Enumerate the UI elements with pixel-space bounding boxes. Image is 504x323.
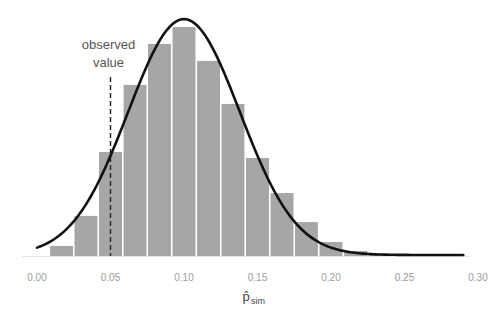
x-axis-label: p̂ sim: [242, 289, 265, 306]
x-tick-label: 0.20: [321, 272, 341, 283]
histogram-bar-7: [197, 61, 220, 256]
x-tick-label: 0.10: [174, 272, 194, 283]
x-tick-label: 0.30: [468, 272, 488, 283]
x-tick-label: 0.00: [27, 272, 47, 283]
x-tick-label: 0.25: [395, 272, 415, 283]
observed-value-label-line2: value: [93, 55, 124, 70]
histogram-bar-6: [173, 27, 196, 256]
histogram-bar-8: [221, 104, 244, 256]
histogram-bar-5: [148, 44, 171, 256]
histogram-bar-4: [124, 85, 147, 256]
x-axis-ticks: 0.000.050.100.150.200.250.30: [27, 272, 488, 283]
x-tick-label: 0.05: [101, 272, 121, 283]
histogram-chart: observed value 0.000.050.100.150.200.250…: [0, 0, 504, 323]
observed-value-label-line1: observed: [82, 37, 135, 52]
x-axis-label-main: p̂: [242, 289, 249, 304]
histogram-bar-1: [50, 246, 73, 256]
x-axis-label-subscript: sim: [251, 296, 265, 306]
histogram-bar-2: [74, 216, 97, 256]
x-tick-label: 0.15: [248, 272, 268, 283]
